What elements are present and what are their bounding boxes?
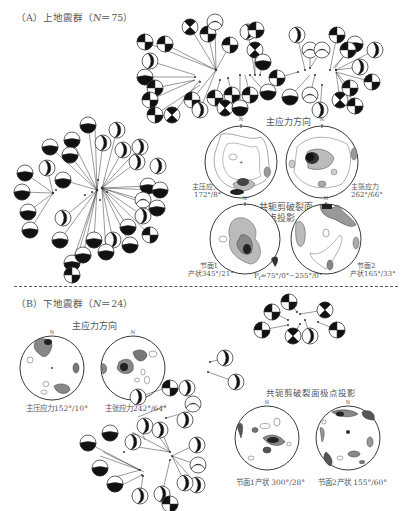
panel-b-cluster-right [254, 294, 345, 344]
svg-text:+: + [239, 159, 243, 165]
panel-b-stereonet-plane1: N [235, 399, 299, 470]
panel-a-stereonet-plane2: N [291, 195, 361, 274]
panel-a-cluster-left [14, 117, 168, 283]
panel-a-cluster-top [137, 14, 383, 123]
panel-b-stereonet-plane2: N [316, 399, 380, 470]
panel-b-stereonet-p-axis: N [20, 329, 84, 400]
panel-b-stereonet-t-axis: N [101, 329, 165, 400]
svg-text:N: N [265, 399, 270, 405]
svg-text:N: N [346, 399, 351, 405]
panel-a-stereonet-p-axis: N + [205, 116, 277, 198]
svg-text:N: N [320, 116, 325, 122]
figure-graphics: N + N N N [0, 0, 401, 511]
svg-text:N: N [324, 195, 329, 201]
panel-a-stereonet-plane1: N [210, 195, 280, 274]
svg-text:N: N [131, 329, 136, 335]
svg-text:N: N [239, 116, 244, 122]
svg-text:N: N [243, 195, 248, 201]
svg-text:N: N [50, 329, 55, 335]
panel-a-stereonet-t-axis: N [286, 116, 358, 198]
